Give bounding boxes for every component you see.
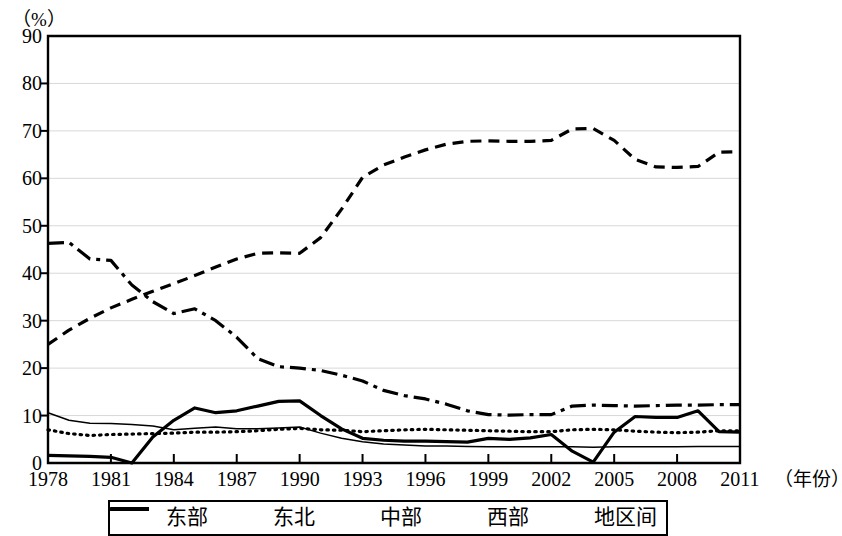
- legend-swatch-dash-dot-icon: [547, 511, 587, 525]
- y-tick-label: 60: [0, 168, 42, 188]
- y-tick-label: 20: [0, 358, 42, 378]
- legend-swatch-dotted-icon: [440, 511, 480, 525]
- y-tick-label: 90: [0, 26, 42, 46]
- series-line-东部: [48, 129, 740, 345]
- x-tick-label: 1981: [76, 469, 146, 489]
- x-axis-unit-label: （年份）: [774, 470, 842, 490]
- x-tick-label: 1993: [328, 469, 398, 489]
- legend-swatch-solid-thick-icon: [226, 511, 266, 525]
- series-line-东北: [48, 401, 740, 463]
- y-tick-label: 80: [0, 73, 42, 93]
- legend-swatch-solid-thin-icon: [333, 511, 373, 525]
- legend-label: 西部: [487, 507, 529, 530]
- legend-item-东北: 东北: [226, 507, 315, 530]
- plot-frame: [48, 36, 740, 463]
- legend-label: 中部: [380, 507, 422, 530]
- legend-item-西部: 西部: [440, 507, 529, 530]
- x-tick-label: 1999: [453, 469, 523, 489]
- chart-legend: 东部东北中部西部地区间: [108, 500, 668, 536]
- legend-item-中部: 中部: [333, 507, 422, 530]
- x-tick-label: 2008: [642, 469, 712, 489]
- series-line-西部: [48, 428, 740, 435]
- x-tick-label: 2002: [516, 469, 586, 489]
- y-tick-label: 70: [0, 121, 42, 141]
- y-tick-label: 10: [0, 406, 42, 426]
- legend-label: 地区间: [594, 507, 657, 530]
- legend-item-地区间: 地区间: [547, 507, 657, 530]
- x-tick-label: 1996: [390, 469, 460, 489]
- x-tick-label: 1987: [202, 469, 272, 489]
- x-tick-label: 1978: [13, 469, 83, 489]
- x-tick-label: 2011: [705, 469, 775, 489]
- series-line-地区间: [48, 242, 740, 415]
- x-tick-label: 1990: [265, 469, 335, 489]
- x-tick-label: 2005: [579, 469, 649, 489]
- y-tick-label: 40: [0, 263, 42, 283]
- y-tick-label: 30: [0, 311, 42, 331]
- legend-label: 东部: [166, 507, 208, 530]
- x-tick-label: 1984: [139, 469, 209, 489]
- legend-label: 东北: [273, 507, 315, 530]
- y-tick-label: 50: [0, 216, 42, 236]
